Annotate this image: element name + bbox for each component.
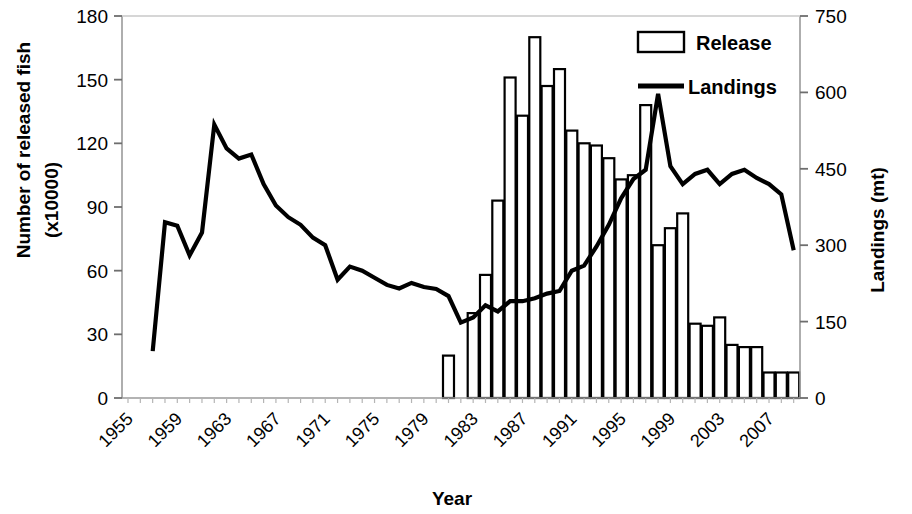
release-bar xyxy=(751,347,762,398)
release-bar xyxy=(764,373,775,399)
left-axis-tick-label: 60 xyxy=(87,261,108,282)
release-bar xyxy=(529,37,540,398)
release-bar xyxy=(468,313,479,398)
x-axis-title: Year xyxy=(432,488,473,509)
release-bar xyxy=(702,326,713,398)
legend-label-landings: Landings xyxy=(688,76,777,98)
right-axis-tick-label: 450 xyxy=(815,159,847,180)
left-axis-tick-label: 0 xyxy=(97,388,108,409)
release-bar xyxy=(628,175,639,398)
release-bar xyxy=(788,373,799,399)
release-bar xyxy=(591,146,602,399)
release-bar xyxy=(443,356,454,398)
left-axis-tick-label: 90 xyxy=(87,197,108,218)
release-bar xyxy=(517,116,528,398)
release-bar xyxy=(579,143,590,398)
right-axis-tick-label: 600 xyxy=(815,82,847,103)
legend-label-release: Release xyxy=(696,32,772,54)
release-bar xyxy=(542,86,553,398)
chart-container: 0306090120150180015030045060075019551959… xyxy=(0,0,912,514)
right-axis-tick-label: 750 xyxy=(815,6,847,27)
right-axis-tick-label: 300 xyxy=(815,235,847,256)
release-bar xyxy=(554,69,565,398)
release-bar xyxy=(653,245,664,398)
right-axis-tick-label: 0 xyxy=(815,388,826,409)
release-bar xyxy=(492,201,503,398)
release-bar xyxy=(665,228,676,398)
release-bar xyxy=(714,317,725,398)
release-bar xyxy=(739,347,750,398)
release-bar xyxy=(616,179,627,398)
right-axis-tick-label: 150 xyxy=(815,312,847,333)
release-bar xyxy=(690,324,701,398)
secondary-y-axis-title: Landings (mt) xyxy=(867,167,888,293)
fishery-release-landings-chart: 0306090120150180015030045060075019551959… xyxy=(0,0,912,514)
release-bar xyxy=(727,345,738,398)
left-axis-tick-label: 150 xyxy=(76,70,108,91)
y-axis-title-line2: (x10000) xyxy=(41,162,62,238)
legend-swatch-release xyxy=(638,32,684,52)
release-bar xyxy=(677,213,688,398)
left-axis-tick-label: 30 xyxy=(87,324,108,345)
left-axis-tick-label: 120 xyxy=(76,133,108,154)
release-bar xyxy=(505,78,516,399)
release-bar xyxy=(776,373,787,399)
release-bar xyxy=(603,158,614,398)
release-bar xyxy=(566,131,577,398)
release-bar xyxy=(480,275,491,398)
left-axis-tick-label: 180 xyxy=(76,6,108,27)
y-axis-title-line1: Number of released fish xyxy=(13,42,34,258)
